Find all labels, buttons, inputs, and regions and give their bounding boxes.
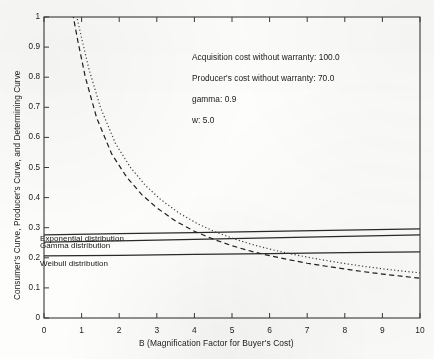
y-tick-label: 0.9 xyxy=(10,42,40,51)
x-tick-label: 1 xyxy=(68,325,96,335)
y-tick-label: 0.1 xyxy=(10,283,40,292)
chart-figure: Consumer's Curve, Producer's Curve, and … xyxy=(0,0,434,359)
y-tick-label: 0.5 xyxy=(10,163,40,172)
y-tick-label: 0.2 xyxy=(10,253,40,262)
y-tick-label: 0 xyxy=(10,313,40,322)
curve-label-gamma: Gamma distribution xyxy=(40,241,110,250)
x-tick-label: 3 xyxy=(143,325,171,335)
x-tick-label: 9 xyxy=(368,325,396,335)
axis-ticks xyxy=(44,17,420,318)
y-tick-label: 0.3 xyxy=(10,223,40,232)
curve-label-weibull: Weibull distribution xyxy=(40,259,108,268)
x-tick-label: 5 xyxy=(218,325,246,335)
series-determining-curve-dotted xyxy=(74,5,420,273)
y-tick-label: 0.6 xyxy=(10,132,40,141)
axes-frame xyxy=(44,17,420,318)
annotation-line: gamma: 0.9 xyxy=(192,94,236,104)
x-axis-label: B (Magnification Factor for Buyer's Cost… xyxy=(139,338,294,348)
y-tick-label: 1 xyxy=(10,12,40,21)
x-tick-label: 10 xyxy=(406,325,434,335)
x-tick-label: 8 xyxy=(331,325,359,335)
x-tick-label: 7 xyxy=(293,325,321,335)
annotation-line: Acquisition cost without warranty: 100.0 xyxy=(192,52,340,62)
series-weibull-distribution xyxy=(44,252,420,256)
y-tick-label: 0.4 xyxy=(10,193,40,202)
annotation-line: w: 5.0 xyxy=(192,115,214,125)
x-tick-label: 4 xyxy=(180,325,208,335)
x-tick-label: 6 xyxy=(256,325,284,335)
x-tick-label: 2 xyxy=(105,325,133,335)
annotation-line: Producer's cost without warranty: 70.0 xyxy=(192,73,334,83)
y-tick-label: 0.8 xyxy=(10,72,40,81)
x-tick-label: 0 xyxy=(30,325,58,335)
y-tick-label: 0.7 xyxy=(10,102,40,111)
